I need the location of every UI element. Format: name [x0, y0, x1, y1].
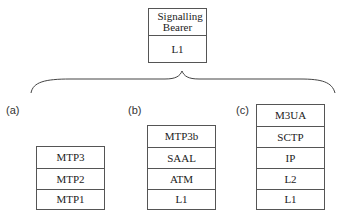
stack-layer: SCTP [257, 126, 324, 147]
layer-label: SCTP [277, 132, 303, 143]
stack-layer: MTP1 [37, 189, 104, 209]
stack-layer: MTP2 [37, 168, 104, 189]
layer-label: M3UA [275, 110, 306, 121]
stack-layer: L1 [148, 189, 215, 209]
stack-label-c: (c) [236, 104, 249, 116]
layer-label: ATM [170, 174, 193, 185]
layer-label: L2 [284, 174, 296, 185]
protocol-stack-b: MTP3b SAAL ATM L1 [147, 125, 216, 210]
stack-layer: MTP3 [37, 147, 104, 168]
layer-label: SAAL [167, 153, 196, 164]
stack-layer: MTP3b [148, 126, 215, 147]
layer-label: MTP2 [56, 174, 84, 185]
protocol-stack-c: M3UA SCTP IP L2 L1 [256, 104, 325, 210]
protocol-stack-a: MTP3 MTP2 MTP1 [36, 146, 105, 210]
layer-label: L1 [284, 194, 296, 205]
stack-layer: IP [257, 147, 324, 168]
layer-label: MTP1 [56, 194, 84, 205]
stack-layer: L2 [257, 168, 324, 189]
stack-layer: SAAL [148, 147, 215, 168]
layer-label: MTP3b [165, 131, 199, 142]
stack-label-a: (a) [6, 104, 19, 116]
layer-label: L1 [175, 194, 187, 205]
stack-label-b: (b) [128, 104, 141, 116]
layer-label: MTP3 [56, 152, 84, 163]
stack-layer: ATM [148, 168, 215, 189]
layer-label: IP [286, 153, 296, 164]
stack-layer: M3UA [257, 105, 324, 126]
stack-layer: L1 [257, 189, 324, 209]
